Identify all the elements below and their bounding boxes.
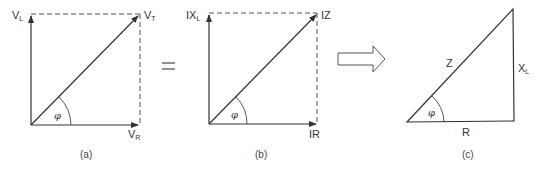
phi-label: φ: [54, 110, 61, 121]
xl-label: XL: [518, 62, 529, 75]
r-label: R: [462, 126, 470, 138]
panel-a-voltage-phasor: VL VT VR φ (a): [12, 9, 156, 160]
z-label: Z: [446, 57, 453, 69]
iz-label: IZ: [321, 9, 331, 21]
iz-vector: [209, 15, 316, 124]
impedance-triangle: [407, 9, 514, 122]
ixl-label: IXL: [186, 9, 200, 22]
vr-label: VR: [128, 128, 140, 141]
vt-vector: [31, 16, 138, 125]
panel-b-current-phasor: IXL IZ IR φ (b): [186, 9, 331, 160]
right-arrow-icon: [338, 46, 385, 72]
vl-label: VL: [12, 9, 23, 22]
ir-label: IR: [309, 128, 320, 140]
equals-sign: [162, 63, 175, 69]
impedance-diagram: VL VT VR φ (a) IXL IZ IR φ (b) Z XL R φ …: [0, 0, 541, 171]
vt-label: VT: [144, 9, 156, 22]
panel-c-impedance-triangle: Z XL R φ (c): [407, 9, 529, 160]
caption-c: (c): [462, 149, 474, 160]
phi-label: φ: [231, 109, 238, 120]
caption-b: (b): [255, 149, 267, 160]
caption-a: (a): [80, 149, 92, 160]
phi-label: φ: [428, 107, 435, 118]
